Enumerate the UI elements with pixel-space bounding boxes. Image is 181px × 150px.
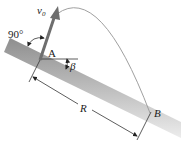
point-a-label: A <box>48 47 56 59</box>
range-label: R <box>79 102 87 114</box>
projectile-incline-diagram: v0 90° A β R B <box>0 0 181 150</box>
incline-angle-label: β <box>69 60 76 72</box>
range-dimension-line-2 <box>92 110 137 136</box>
point-b-label: B <box>154 107 161 119</box>
velocity-arrow-head <box>50 6 60 20</box>
velocity-label: v0 <box>37 4 46 18</box>
inclined-plane <box>4 38 181 138</box>
right-angle-arc <box>28 38 44 46</box>
launch-angle-label: 90° <box>8 28 23 40</box>
